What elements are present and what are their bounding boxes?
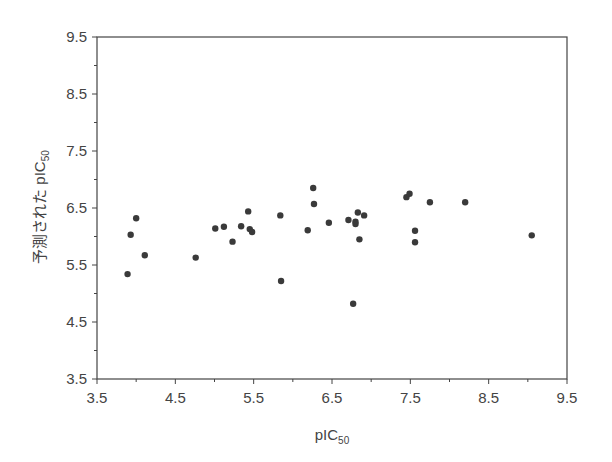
data-points — [124, 185, 535, 307]
x-tick-label: 3.5 — [87, 389, 108, 406]
data-point — [310, 185, 316, 191]
x-tick-label: 7.5 — [400, 389, 421, 406]
data-point — [529, 232, 535, 238]
data-point — [311, 201, 317, 207]
data-point — [361, 212, 367, 218]
x-tick-label: 4.5 — [165, 389, 186, 406]
data-point — [212, 225, 218, 231]
data-point — [355, 209, 361, 215]
plot-border — [97, 37, 567, 379]
data-point — [356, 236, 362, 242]
data-point — [326, 220, 332, 226]
data-point — [277, 212, 283, 218]
x-axis-title: pIC50 — [315, 426, 350, 446]
data-point — [412, 228, 418, 234]
data-point — [278, 278, 284, 284]
data-point — [345, 217, 351, 223]
x-tick-label: 9.5 — [557, 389, 578, 406]
data-point — [350, 301, 356, 307]
data-point — [238, 223, 244, 229]
x-tick-label: 8.5 — [478, 389, 499, 406]
y-tick-label: 6.5 — [66, 199, 87, 216]
data-point — [427, 199, 433, 205]
data-point — [133, 215, 139, 221]
x-tick-label: 5.5 — [243, 389, 264, 406]
data-point — [412, 239, 418, 245]
data-point — [249, 229, 255, 235]
data-point — [124, 271, 130, 277]
scatter-chart: 3.54.55.56.57.58.59.53.54.55.56.57.58.59… — [0, 0, 612, 462]
y-tick-label: 3.5 — [66, 370, 87, 387]
data-point — [229, 238, 235, 244]
y-tick-label: 4.5 — [66, 313, 87, 330]
axis-ticks: 3.54.55.56.57.58.59.53.54.55.56.57.58.59… — [66, 28, 577, 406]
data-point — [352, 221, 358, 227]
data-point — [406, 191, 412, 197]
plot-area — [97, 37, 567, 379]
data-point — [142, 252, 148, 258]
y-tick-label: 8.5 — [66, 85, 87, 102]
data-point — [245, 208, 251, 214]
data-point — [193, 254, 199, 260]
y-tick-label: 5.5 — [66, 256, 87, 273]
y-tick-label: 7.5 — [66, 142, 87, 159]
y-axis-title: 予測された pIC50 — [31, 150, 51, 264]
y-tick-label: 9.5 — [66, 28, 87, 45]
x-tick-label: 6.5 — [322, 389, 343, 406]
data-point — [462, 199, 468, 205]
data-point — [127, 232, 133, 238]
data-point — [305, 227, 311, 233]
data-point — [221, 224, 227, 230]
